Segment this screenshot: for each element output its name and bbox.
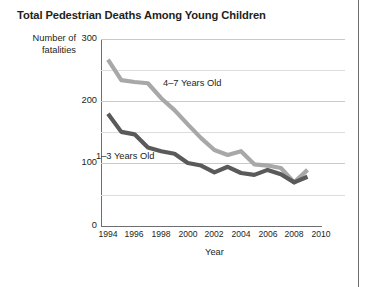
chart-title: Total Pedestrian Deaths Among Young Chil… — [17, 9, 266, 21]
plot-area — [101, 39, 345, 226]
line-1-3-years-old — [108, 114, 308, 183]
y-tick-label-300: 300 — [55, 33, 97, 43]
y-tick-label-100: 100 — [55, 157, 97, 167]
chart-figure: Total Pedestrian Deaths Among Young Chil… — [0, 0, 372, 287]
figure-right-border — [358, 0, 359, 287]
series-lines — [101, 39, 345, 227]
series-label-1-3-years-old: 1–3 Years Old — [96, 151, 154, 161]
x-axis-title: Year — [108, 247, 321, 257]
x-tick-label-2010: 2010 — [304, 229, 338, 239]
y-tick-label-200: 200 — [55, 95, 97, 105]
series-label-4-7-years-old: 4–7 Years Old — [163, 78, 221, 88]
